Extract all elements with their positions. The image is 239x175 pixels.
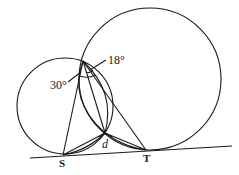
point-s-label: S — [59, 158, 65, 169]
angle-30-label: 30° — [50, 79, 67, 91]
diagram-canvas — [0, 0, 239, 175]
point-t-label: T — [143, 153, 150, 164]
geometry-diagram: 30° 18° d S T — [0, 0, 239, 175]
small-circle — [17, 58, 113, 154]
leader-18 — [90, 60, 106, 70]
angle-d-label: d — [102, 138, 108, 150]
angle-18-label: 18° — [108, 54, 125, 66]
segment-b-s — [63, 133, 105, 155]
segment-a-s — [63, 61, 83, 155]
